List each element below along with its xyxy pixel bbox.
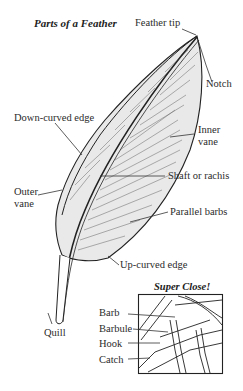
super-close-inset	[128, 295, 223, 374]
label-outer-vane-line2: vane	[14, 198, 34, 210]
label-quill: Quill	[44, 327, 66, 339]
label-inner-vane-line2: vane	[198, 136, 218, 148]
label-inner-vane-line1: Inner	[198, 124, 220, 136]
inset-title: Super Close!	[154, 281, 210, 292]
label-up-curved-edge: Up-curved edge	[120, 259, 187, 271]
label-parallel-barbs: Parallel barbs	[170, 206, 227, 218]
diagram-title: Parts of a Feather	[34, 17, 117, 29]
label-down-curved-edge: Down-curved edge	[14, 112, 94, 124]
inset-label-catch: Catch	[99, 354, 124, 366]
inset-label-hook: Hook	[99, 338, 122, 350]
label-outer-vane-line1: Outer	[14, 186, 38, 198]
label-feather-tip: Feather tip	[135, 17, 180, 29]
label-notch: Notch	[206, 78, 232, 90]
inset-label-barb: Barb	[99, 307, 119, 319]
inset-label-barbule: Barbule	[99, 323, 132, 335]
label-shaft: Shaft or rachis	[168, 170, 229, 182]
